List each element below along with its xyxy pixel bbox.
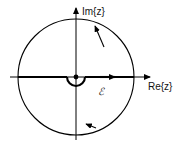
origin-dot — [74, 75, 79, 80]
contour-diagram-svg: Im{z} Re{z} ℰ — [0, 0, 186, 146]
real-axis-label: Re{z} — [148, 81, 173, 92]
contour-label: ℰ — [98, 86, 105, 97]
coordinate-axes — [10, 8, 150, 140]
upper-arc-arrow — [95, 26, 104, 47]
imaginary-axis-label: Im{z} — [82, 6, 105, 17]
contour-diagram-figure: Im{z} Re{z} ℰ — [0, 0, 186, 146]
lower-arc-arrow — [86, 124, 96, 128]
